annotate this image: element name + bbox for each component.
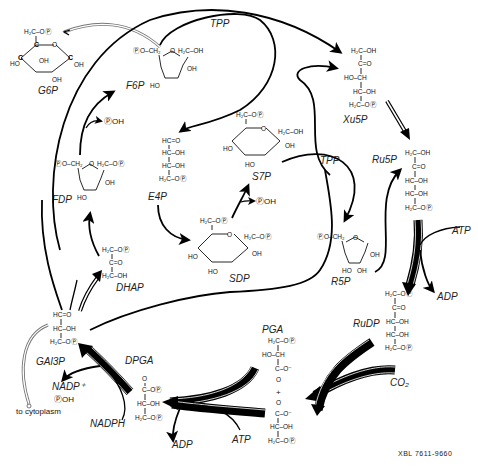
dhap-line-1: H₂C–OⓅ — [102, 246, 130, 253]
f6p-ring-o: O — [170, 47, 175, 54]
compound-r5p: ⓅO–CH₂ O OH HO OH R5P — [317, 233, 380, 287]
e4p-label: E4P — [148, 191, 167, 202]
f6p-label: F6P — [126, 80, 145, 91]
fdp-ho: HO — [77, 194, 87, 201]
xu5p-line-1: H₂C–OH — [351, 47, 377, 54]
gal3p-line-2: HC–OH — [53, 325, 76, 332]
g6p-oh2: OH — [39, 57, 49, 64]
s7p-right-group: H₂C–OH — [278, 128, 304, 135]
sdp-ring-o: O — [227, 231, 232, 238]
figure-code: XBL 7611-9660 — [398, 450, 452, 457]
s7p-oh: OH — [285, 142, 295, 149]
g6p-ho: HO — [10, 60, 20, 67]
gal3p-label: GAl3P — [36, 356, 65, 367]
compound-f6p: ⓅO–CH₂ H₂C–OH O OH HO F6P — [126, 47, 204, 91]
s7p-label: S7P — [252, 171, 271, 182]
ru5p-line-5: H₂C–OⓅ — [405, 204, 433, 211]
g6p-oh: OH — [74, 61, 84, 68]
sdp-ho2: HO — [208, 268, 218, 275]
compound-ru5p: H₂C–OH C=O HC–OH HC–OH H₂C–OⓅ Ru5P — [372, 149, 433, 211]
compound-s7p: H₂C–OⓅ H₂C–OH O HO OH HO S7P — [223, 111, 304, 182]
fdp-oh: OH — [105, 179, 115, 186]
ru5p-label: Ru5P — [372, 154, 397, 165]
fdp-right-group: H₂C–OⓅ — [97, 160, 125, 167]
s7p-top-group: H₂C–OⓅ — [236, 111, 264, 118]
export-label: to cytoplasm — [16, 407, 61, 416]
sdp-label: SDP — [229, 273, 250, 284]
tpp-top-label: TPP — [210, 18, 230, 29]
compound-e4p: HC=O HC–OH HC–OH H₂C–OⓅ E4P — [148, 137, 187, 202]
compound-g6p: H₂C–OⓅ C O C HO C OH OH OH G6P — [10, 28, 84, 96]
ru5p-line-1: H₂C–OH — [405, 149, 431, 156]
e4p-line-1: HC=O — [162, 137, 180, 144]
g6p-top-group: H₂C–OⓅ — [24, 28, 52, 35]
pga-top-line-2: HO–CH — [262, 351, 285, 358]
e4p-line-3: HC–OH — [162, 162, 185, 169]
dpga-line-1: O — [142, 375, 147, 382]
xu5p-line-3: HO–CH — [344, 74, 367, 81]
g6p-c1: C — [68, 54, 73, 61]
nadp-label: NADP⁺ — [52, 381, 86, 392]
s7p-ring-o: O — [261, 125, 266, 132]
dpga-label: DPGA — [125, 355, 154, 366]
xu5p-line-2: C=O — [358, 60, 372, 67]
nadph-label: NADPH — [90, 418, 126, 429]
dhap-label: DHAP — [116, 282, 144, 293]
compound-sdp: H₂C–OⓅ H₂C–OⓅ O HO OH HO SDP — [188, 217, 272, 284]
sdp-ho: HO — [188, 253, 198, 260]
pi-sdp: ⓅOH — [256, 197, 276, 206]
e4p-line-4: H₂C–OⓅ — [159, 175, 187, 182]
f6p-oh: OH — [187, 65, 197, 72]
s7p-ho2: HO — [245, 161, 255, 168]
fdp-label: FDP — [52, 194, 72, 205]
atp-bottom-label: ATP — [231, 434, 251, 445]
gal3p-line-3: H₂C–OⓅ — [50, 338, 78, 345]
ru5p-line-2: C=O — [412, 163, 426, 170]
compound-rudp: H₂C–OⓅ C=O HC–OH HC–OH H₂C–OⓅ RuDP — [353, 290, 413, 351]
pga-bottom-line-1: O — [276, 399, 281, 406]
adp-bottom-label: ADP — [171, 439, 193, 450]
calvin-cycle-diagram: H₂C–OⓅ C O C HO C OH OH OH G6P ⓅO–CH₂ H₂… — [0, 0, 478, 467]
rudp-line-3: HC–OH — [386, 318, 409, 325]
dhap-line-2: C=O — [109, 259, 123, 266]
rudp-label: RuDP — [353, 318, 380, 329]
f6p-ho: HO — [150, 82, 160, 89]
fdp-ring-o: O — [89, 160, 94, 167]
xu5p-label: Xu5P — [342, 114, 368, 125]
rudp-line-2: C=O — [392, 304, 406, 311]
pga-top-line-3: C–O⁻ — [275, 365, 292, 372]
r5p-ho: HO — [342, 267, 352, 274]
dpga-line-3: HC–OH — [137, 400, 160, 407]
g6p-ring-o: O — [52, 41, 57, 48]
adp-right-label: ADP — [436, 291, 458, 302]
f6p-right-group: H₂C–OH — [178, 47, 204, 54]
g6p-oh3: OH — [52, 76, 62, 83]
atp-right-label: ATP — [451, 225, 471, 236]
rudp-line-5: H₂C–OⓅ — [385, 344, 413, 351]
e4p-line-2: HC–OH — [162, 149, 185, 156]
rudp-line-4: HC–OH — [386, 331, 409, 338]
g6p-c5: C — [34, 41, 39, 48]
r5p-oh2: OH — [357, 267, 367, 274]
g6p-label: G6P — [38, 85, 58, 96]
gal3p-line-1: HC=O — [53, 311, 71, 318]
r5p-label: R5P — [331, 276, 351, 287]
s7p-ho: HO — [223, 145, 233, 152]
fdp-left-group: ⓅO–CH₂ — [55, 160, 83, 167]
compound-fdp: ⓅO–CH₂ H₂C–OⓅ O OH HO FDP — [52, 160, 125, 205]
compound-gal3p: HC=O HC–OH H₂C–OⓅ GAl3P — [36, 311, 78, 367]
r5p-oh: OH — [370, 251, 380, 258]
xu5p-line-5: H₂C–OⓅ — [349, 101, 377, 108]
f6p-left-group: ⓅO–CH₂ — [133, 47, 161, 54]
dhap-line-3: H₂C–OH — [102, 272, 128, 279]
r5p-ring-o: O — [353, 234, 358, 241]
compound-xu5p: H₂C–OH C=O HO–CH HC–OH H₂C–OⓅ Xu5P — [342, 47, 377, 125]
compound-pga: PGA H₂C–OⓅ HO–CH C–O⁻ O + O C–O⁻ HC–OH H… — [262, 324, 296, 444]
pga-label: PGA — [262, 324, 283, 335]
ru5p-line-3: HC–OH — [405, 177, 428, 184]
pga-bottom-line-4: H₂C–OⓅ — [268, 437, 296, 444]
co2-label: CO₂ — [390, 377, 409, 388]
pi-gal3p: ⓅOH — [54, 395, 74, 404]
sdp-top-group: H₂C–OⓅ — [200, 217, 228, 224]
xu5p-line-4: HC–OH — [353, 88, 376, 95]
